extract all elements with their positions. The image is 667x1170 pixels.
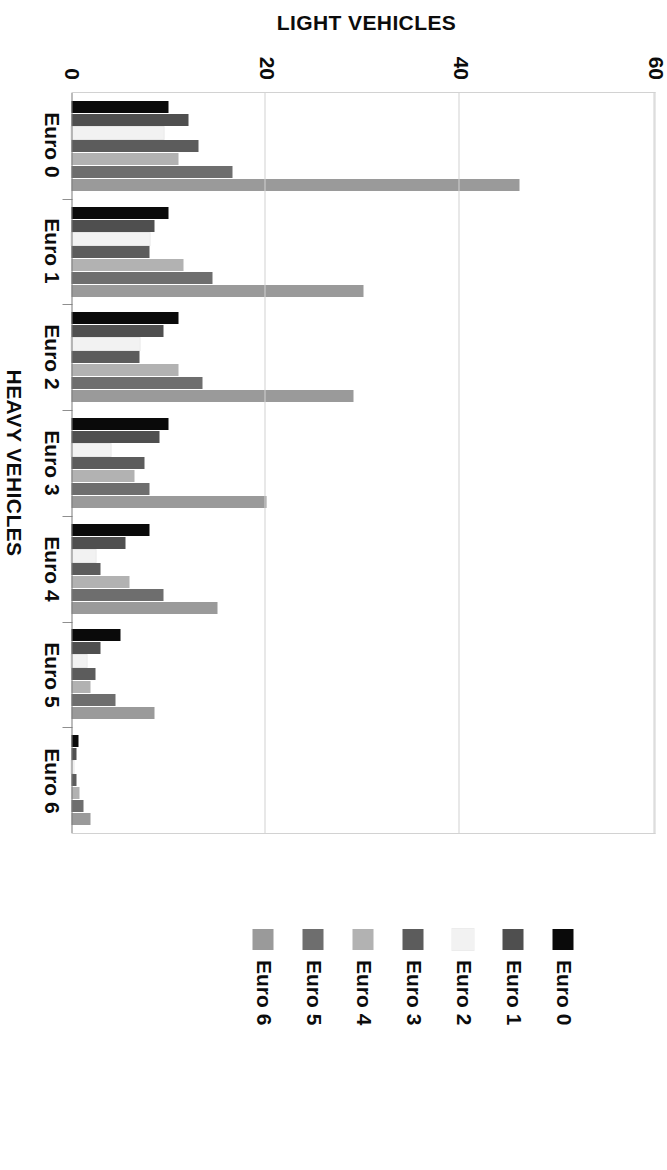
- bar: [71, 668, 95, 680]
- bar: [71, 153, 178, 165]
- x-axis-title: HEAVY VEHICLES: [1, 92, 25, 834]
- legend-item-label: Euro 6: [251, 960, 275, 1025]
- bar: [71, 813, 90, 825]
- bar: [71, 550, 95, 562]
- x-axis-tick-labels: Euro 0Euro 1Euro 2Euro 3Euro 4Euro 5Euro…: [29, 92, 63, 834]
- bar-groups: [71, 93, 654, 833]
- bar: [71, 246, 149, 258]
- bar: [71, 563, 100, 575]
- plot-area: [71, 92, 655, 834]
- bar-group: [71, 727, 654, 833]
- bar: [71, 496, 266, 508]
- bar: [71, 470, 134, 482]
- bar: [71, 537, 125, 549]
- legend-item[interactable]: Euro 6: [251, 929, 275, 1025]
- bar-group: [71, 410, 654, 516]
- plot-block: LIGHT VEHICLES 0204060 Euro 0Euro 1Euro …: [0, 0, 661, 905]
- legend-item[interactable]: Euro 1: [501, 929, 525, 1025]
- x-axis-tick-label: Euro 6: [29, 728, 63, 834]
- bar: [71, 351, 139, 363]
- bar: [71, 207, 168, 219]
- bar: [71, 312, 178, 324]
- legend-swatch-icon: [503, 929, 524, 950]
- legend-item-label: Euro 5: [301, 960, 325, 1025]
- legend-item-label: Euro 0: [551, 960, 575, 1025]
- bar: [71, 390, 353, 402]
- bar: [71, 338, 139, 350]
- y-axis-tick-labels: 0204060: [71, 40, 661, 86]
- bar: [71, 602, 217, 614]
- bar: [71, 166, 232, 178]
- bar-group: [71, 199, 654, 305]
- x-axis-tick-label: Euro 5: [29, 622, 63, 728]
- legend-item[interactable]: Euro 5: [301, 929, 325, 1025]
- legend-swatch-icon: [453, 929, 474, 950]
- bar: [71, 655, 86, 667]
- bar: [71, 576, 129, 588]
- y-axis-tick-label: 60: [643, 57, 667, 80]
- x-axis-tick-label: Euro 3: [29, 410, 63, 516]
- bar: [71, 431, 159, 443]
- legend-item-label: Euro 1: [501, 960, 525, 1025]
- bar: [71, 101, 168, 113]
- legend-swatch-icon: [303, 929, 324, 950]
- bar-group: [71, 516, 654, 622]
- category-axis-baseline: [71, 93, 72, 833]
- bar: [71, 800, 83, 812]
- legend-item[interactable]: Euro 3: [401, 929, 425, 1025]
- legend-swatch-icon: [403, 929, 424, 950]
- bar: [71, 694, 115, 706]
- legend-swatch-icon: [353, 929, 374, 950]
- bar-group: [71, 93, 654, 199]
- y-axis-title-label: LIGHT VEHICLES: [276, 11, 455, 35]
- bar: [71, 418, 168, 430]
- legend-item-label: Euro 3: [401, 960, 425, 1025]
- bar: [71, 220, 154, 232]
- bar: [71, 707, 154, 719]
- bar: [71, 457, 144, 469]
- legend-item-label: Euro 2: [451, 960, 475, 1025]
- legend-item[interactable]: Euro 2: [451, 929, 475, 1025]
- bar-group: [71, 622, 654, 728]
- bar: [71, 272, 212, 284]
- x-axis-tick-label: Euro 4: [29, 516, 63, 622]
- legend-item[interactable]: Euro 4: [351, 929, 375, 1025]
- bar: [71, 524, 149, 536]
- value-gridline: [458, 93, 459, 833]
- x-axis-tick-label: Euro 0: [29, 92, 63, 198]
- bar: [71, 140, 198, 152]
- bar: [71, 589, 163, 601]
- bar: [71, 285, 363, 297]
- value-gridline: [653, 93, 654, 833]
- bar-group: [71, 304, 654, 410]
- bar: [71, 179, 519, 191]
- bar: [71, 259, 183, 271]
- legend-swatch-icon: [553, 929, 574, 950]
- bar: [71, 233, 149, 245]
- bar: [71, 364, 178, 376]
- legend-item-label: Euro 4: [351, 960, 375, 1025]
- bar: [71, 681, 90, 693]
- y-axis-title: LIGHT VEHICLES: [71, 6, 661, 40]
- bar: [71, 127, 163, 139]
- bar: [71, 642, 100, 654]
- y-axis-tick-label: 40: [448, 57, 472, 80]
- bar: [71, 444, 110, 456]
- x-axis-tick-label: Euro 2: [29, 304, 63, 410]
- y-axis-tick-label: 0: [59, 68, 83, 80]
- bar: [71, 629, 120, 641]
- x-axis-tick-label: Euro 1: [29, 198, 63, 304]
- bar: [71, 114, 188, 126]
- legend-item[interactable]: Euro 0: [551, 929, 575, 1025]
- bar: [71, 377, 202, 389]
- legend: Euro 0Euro 1Euro 2Euro 3Euro 4Euro 5Euro…: [0, 905, 661, 1170]
- bar: [71, 483, 149, 495]
- y-axis-tick-label: 20: [254, 57, 278, 80]
- bar: [71, 325, 163, 337]
- legend-swatch-icon: [253, 929, 274, 950]
- value-gridline: [264, 93, 265, 833]
- plot-inner: [71, 93, 654, 833]
